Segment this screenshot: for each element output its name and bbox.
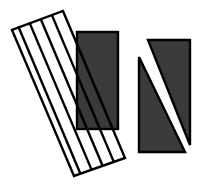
- abstract-figure-canvas: abstract-geometric-figure: [0, 0, 203, 186]
- dark-rectangle-body: [77, 32, 118, 129]
